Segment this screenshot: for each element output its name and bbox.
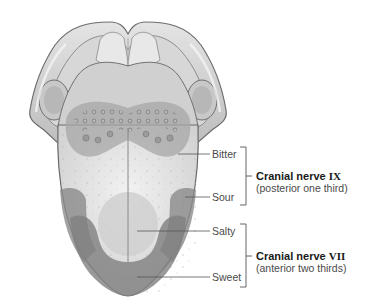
label-sweet: Sweet bbox=[212, 271, 241, 283]
label-salty: Salty bbox=[212, 225, 235, 237]
nerve-vii-label: Cranial nerve VII (anterior two thirds) bbox=[256, 250, 346, 274]
nerve-vii-numeral: VII bbox=[329, 250, 346, 262]
nerve-ix-region: (posterior one third) bbox=[256, 182, 348, 194]
label-bitter: Bitter bbox=[212, 148, 237, 160]
tongue-body bbox=[55, 62, 201, 300]
bracket-nerve-ix bbox=[240, 147, 246, 205]
nerve-vii-title: Cranial nerve VII bbox=[256, 250, 346, 262]
nerve-ix-title: Cranial nerve IX bbox=[256, 170, 348, 182]
nerve-vii-name: Cranial nerve bbox=[256, 250, 326, 262]
brackets bbox=[240, 147, 252, 287]
nerve-ix-numeral: IX bbox=[329, 170, 341, 182]
nerve-ix-label: Cranial nerve IX (posterior one third) bbox=[256, 170, 348, 194]
nerve-ix-name: Cranial nerve bbox=[256, 170, 326, 182]
nerve-vii-region: (anterior two thirds) bbox=[256, 262, 346, 274]
label-sour: Sour bbox=[212, 191, 234, 203]
